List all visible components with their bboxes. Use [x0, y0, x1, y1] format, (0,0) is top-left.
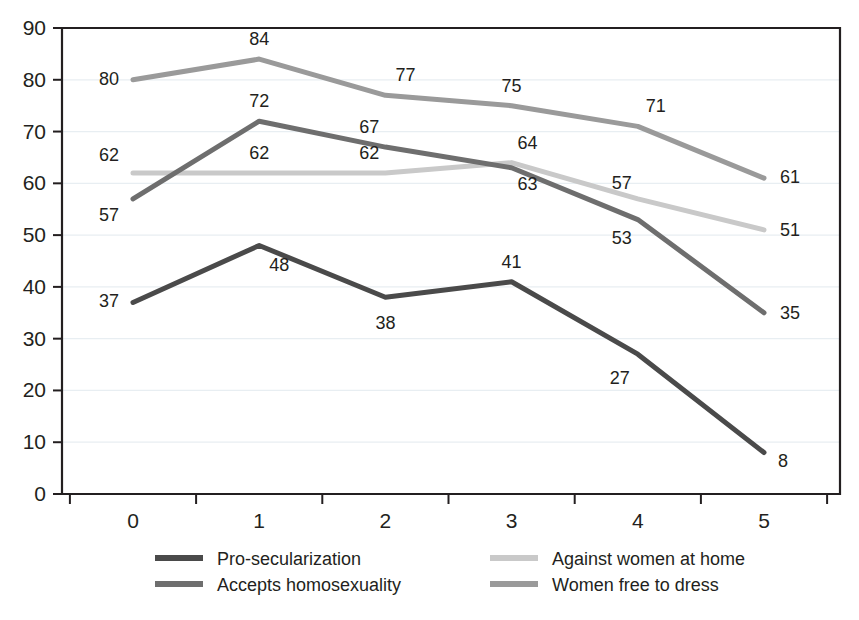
chart-canvas: 0102030405060708090 012345 3748384127857… [0, 0, 859, 620]
data-point-label: 71 [646, 96, 666, 116]
x-axis-tick-label: 0 [127, 509, 139, 532]
legend-label: Pro-secularization [217, 549, 361, 569]
y-axis-tick-label: 30 [23, 327, 46, 350]
legend-label: Against women at home [552, 549, 745, 569]
y-axis-tick-label: 0 [34, 482, 46, 505]
y-axis-tick-label: 50 [23, 223, 46, 246]
data-point-label: 57 [612, 173, 632, 193]
data-point-label: 62 [249, 143, 269, 163]
data-point-label: 75 [502, 76, 522, 96]
y-axis-tick-label: 80 [23, 68, 46, 91]
data-point-label: 37 [99, 291, 119, 311]
data-point-label: 62 [99, 145, 119, 165]
y-axis-tick-label: 70 [23, 120, 46, 143]
data-point-label: 62 [359, 143, 379, 163]
data-point-label: 64 [518, 133, 538, 153]
data-point-label: 61 [780, 167, 800, 187]
x-axis-tick-label: 3 [506, 509, 518, 532]
legend-label: Accepts homosexuality [217, 575, 401, 595]
y-axis-tick-label: 60 [23, 171, 46, 194]
x-axis-tick-label: 2 [380, 509, 392, 532]
data-point-label: 51 [780, 220, 800, 240]
data-point-label: 57 [99, 205, 119, 225]
data-point-label: 77 [395, 65, 415, 85]
data-point-label: 72 [249, 91, 269, 111]
data-point-label: 8 [778, 451, 788, 471]
x-axis-tick-label: 1 [253, 509, 265, 532]
x-axis-tick-label: 4 [632, 509, 644, 532]
data-point-label: 67 [359, 117, 379, 137]
y-axis-tick-label: 40 [23, 275, 46, 298]
data-point-label: 53 [612, 228, 632, 248]
data-point-label: 63 [518, 174, 538, 194]
data-point-label: 84 [249, 29, 269, 49]
data-point-label: 41 [502, 252, 522, 272]
x-axis-tick-label: 5 [758, 509, 770, 532]
y-axis-tick-label: 10 [23, 430, 46, 453]
legend-label: Women free to dress [552, 575, 719, 595]
y-axis-tick-label: 90 [23, 16, 46, 39]
data-point-label: 80 [99, 69, 119, 89]
y-axis-tick-label: 20 [23, 378, 46, 401]
line-chart: 0102030405060708090 012345 3748384127857… [0, 0, 859, 620]
data-point-label: 38 [375, 313, 395, 333]
data-point-label: 27 [610, 368, 630, 388]
data-point-label: 48 [269, 255, 289, 275]
data-point-label: 35 [780, 303, 800, 323]
